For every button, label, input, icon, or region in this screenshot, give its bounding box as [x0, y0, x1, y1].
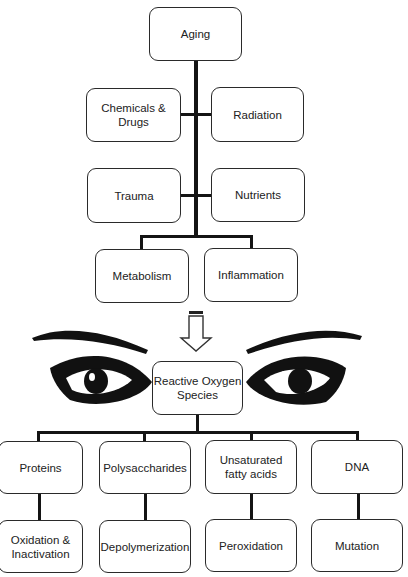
- node-depolymerization: Depolymerization: [99, 520, 191, 573]
- node-nutrients: Nutrients: [211, 168, 305, 222]
- node-label: Depolymerization: [101, 540, 190, 554]
- node-polysaccharides: Polysaccharides: [99, 441, 191, 494]
- node-aging: Aging: [149, 7, 242, 61]
- node-label: Inflammation: [218, 268, 284, 282]
- node-reactive-oxygen-species: Reactive Oxygen Species: [152, 361, 243, 415]
- node-label-line: Inactivation: [11, 547, 69, 561]
- node-inflammation: Inflammation: [204, 248, 298, 302]
- node-label: Aging: [181, 27, 210, 41]
- node-label: Chemicals & Drugs: [87, 101, 180, 129]
- node-label: Peroxidation: [219, 539, 283, 553]
- node-label-line: Unsaturated: [220, 453, 283, 467]
- node-label: Radiation: [233, 108, 282, 122]
- node-label: Nutrients: [235, 188, 281, 202]
- down-arrow-icon: [181, 311, 211, 351]
- node-label: Polysaccharides: [103, 461, 187, 475]
- node-mutation: Mutation: [311, 519, 403, 572]
- node-label: DNA: [345, 460, 369, 474]
- node-unsaturated-fatty-acids: Unsaturated fatty acids: [205, 440, 297, 494]
- node-label-line: fatty acids: [225, 467, 277, 481]
- node-label: Metabolism: [113, 269, 172, 283]
- node-oxidation-inactivation: Oxidation & Inactivation: [0, 520, 83, 573]
- node-label: Mutation: [335, 539, 379, 553]
- node-label: Proteins: [19, 461, 61, 475]
- right-eye-icon: [246, 356, 346, 404]
- node-peroxidation: Peroxidation: [205, 519, 297, 572]
- left-eyebrow-icon: [32, 331, 148, 354]
- node-dna: DNA: [311, 440, 403, 494]
- node-label-line: Species: [177, 388, 218, 402]
- node-label-line: Oxidation &: [11, 533, 70, 547]
- node-radiation: Radiation: [211, 87, 304, 142]
- node-chemicals-drugs: Chemicals & Drugs: [86, 88, 181, 142]
- node-label: Trauma: [114, 189, 153, 203]
- node-proteins: Proteins: [0, 441, 83, 494]
- left-eye-icon: [50, 356, 152, 404]
- right-eyebrow-icon: [246, 331, 362, 354]
- node-metabolism: Metabolism: [95, 249, 189, 303]
- node-trauma: Trauma: [87, 168, 181, 223]
- node-label-line: Reactive Oxygen: [154, 374, 242, 388]
